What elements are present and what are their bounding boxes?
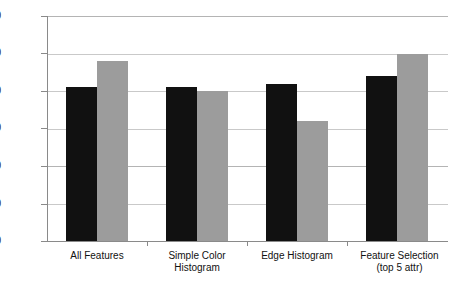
ytick-label-10: 10 [0,199,1,209]
ytick-label-20: 20 [0,161,1,171]
bar-group-simple-color-histogram [147,16,247,241]
ytick-label-30: 30 [0,123,1,133]
category-label-feature-selection: Feature Selection (top 5 attr) [347,250,452,274]
category-label-simple-color-histogram: Simple Color Histogram [147,250,247,274]
category-separator-2 [247,241,248,246]
bar-series-2-edge-histogram [297,121,328,241]
ytick-label-0: 0 [0,236,1,246]
category-label-all-features: All Features [47,250,147,262]
y-axis-line [47,16,48,242]
bar-series-2-simple-color-histogram [197,91,228,241]
ytick-label-50: 50 [0,48,1,58]
bar-group-edge-histogram [247,16,347,241]
ytick-label-40: 40 [0,86,1,96]
bar-series-2-feature-selection [397,54,428,242]
bar-series-1-edge-histogram [266,84,297,242]
bar-series-1-all-features [66,87,97,241]
bar-chart: 60 50 40 30 20 10 0 [0,0,456,293]
bar-series-1-simple-color-histogram [166,87,197,241]
plot-area [47,16,448,241]
bar-group-feature-selection [347,16,447,241]
bar-group-all-features [47,16,147,241]
ytick-label-60: 60 [0,11,1,21]
category-label-edge-histogram: Edge Histogram [243,250,351,262]
category-separator-1 [147,241,148,246]
bar-series-2-all-features [97,61,128,241]
category-separator-3 [347,241,348,246]
bar-series-1-feature-selection [366,76,397,241]
